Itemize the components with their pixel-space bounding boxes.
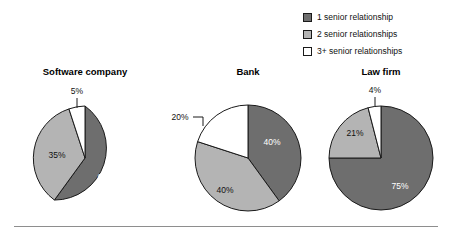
pie-software-company [33,98,106,200]
slice-label-software-1-senior: 60% [97,172,114,182]
slice-label-lawfirm-2-senior: 21% [346,128,363,138]
slice-label-software-3plus-senior: 5% [71,86,83,96]
footer-divider [14,226,438,227]
slice-label-bank-2-senior: 40% [216,185,233,195]
pie-bank [193,105,301,211]
leader-line-bank-3plus [193,117,203,126]
pie-law-firm [329,97,433,210]
pies-canvas [0,0,450,241]
slice-label-software-2-senior: 35% [48,150,65,160]
slice-label-lawfirm-3plus-senior: 4% [369,85,381,95]
slice-label-bank-1-senior: 40% [263,137,280,147]
slice-label-lawfirm-1-senior: 75% [391,181,408,191]
pie-chart-figure: 1 senior relationship 2 senior relations… [0,0,450,241]
slice-label-bank-3plus-senior: 20% [171,112,188,122]
